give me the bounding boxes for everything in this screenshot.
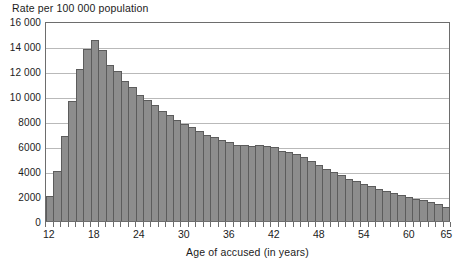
y-tick-label: 4000	[18, 167, 41, 178]
x-tick-label: 12	[43, 228, 55, 240]
x-tick	[405, 222, 406, 227]
x-tick-label: 65	[440, 228, 452, 240]
x-tick	[105, 222, 106, 227]
x-tick	[75, 222, 76, 227]
y-tick-label: 14 000	[10, 42, 41, 53]
x-axis-ticks	[45, 222, 450, 227]
x-tick	[285, 222, 286, 227]
x-tick-label: 24	[133, 228, 145, 240]
y-tick-label: 10 000	[10, 92, 41, 103]
x-tick	[210, 222, 211, 227]
x-tick	[360, 222, 361, 227]
x-tick-label: 18	[88, 228, 100, 240]
x-tick	[443, 222, 444, 227]
x-tick	[195, 222, 196, 227]
x-tick-label: 60	[403, 228, 415, 240]
x-tick-label: 54	[358, 228, 370, 240]
x-tick	[368, 222, 369, 227]
x-tick	[248, 222, 249, 227]
x-tick	[450, 222, 451, 227]
y-tick-label: 12 000	[10, 67, 41, 78]
x-tick-label: 36	[223, 228, 235, 240]
x-axis: 12182430364248546065	[45, 228, 450, 244]
x-tick-label: 48	[313, 228, 325, 240]
x-tick	[150, 222, 151, 227]
x-tick	[233, 222, 234, 227]
x-tick	[165, 222, 166, 227]
x-tick	[293, 222, 294, 227]
x-tick	[308, 222, 309, 227]
x-tick	[375, 222, 376, 227]
x-tick	[315, 222, 316, 227]
x-tick	[435, 222, 436, 227]
x-tick	[270, 222, 271, 227]
x-tick-label: 30	[178, 228, 190, 240]
x-tick	[225, 222, 226, 227]
y-axis: 16 00014 00012 00010 0008000600040002000…	[0, 22, 41, 222]
x-tick	[255, 222, 256, 227]
x-tick	[45, 222, 46, 227]
x-tick-label: 42	[268, 228, 280, 240]
x-tick	[143, 222, 144, 227]
x-tick	[338, 222, 339, 227]
chart-title: Rate per 100 000 population	[12, 2, 149, 14]
x-tick	[398, 222, 399, 227]
x-tick	[203, 222, 204, 227]
bar	[442, 207, 450, 221]
y-tick-label: 6000	[18, 142, 41, 153]
chart-figure: Rate per 100 000 population 16 00014 000…	[0, 0, 460, 267]
x-tick	[345, 222, 346, 227]
x-tick	[428, 222, 429, 227]
x-tick	[158, 222, 159, 227]
x-axis-title: Age of accused (in years)	[45, 246, 450, 258]
x-tick	[83, 222, 84, 227]
x-tick	[383, 222, 384, 227]
x-tick	[263, 222, 264, 227]
x-tick	[90, 222, 91, 227]
x-tick	[413, 222, 414, 227]
x-tick	[420, 222, 421, 227]
x-tick	[240, 222, 241, 227]
bar-series	[46, 23, 449, 221]
x-tick	[53, 222, 54, 227]
x-tick	[390, 222, 391, 227]
x-tick	[300, 222, 301, 227]
y-tick-label: 16 000	[10, 17, 41, 28]
x-tick	[128, 222, 129, 227]
x-tick	[98, 222, 99, 227]
x-tick	[353, 222, 354, 227]
x-tick	[113, 222, 114, 227]
x-tick	[323, 222, 324, 227]
x-tick	[330, 222, 331, 227]
x-tick	[120, 222, 121, 227]
plot-area	[45, 22, 450, 222]
x-tick	[218, 222, 219, 227]
x-tick	[173, 222, 174, 227]
x-tick	[60, 222, 61, 227]
y-tick-label: 8000	[18, 117, 41, 128]
x-tick	[135, 222, 136, 227]
x-tick	[180, 222, 181, 227]
y-tick-label: 0	[35, 217, 41, 228]
x-tick	[188, 222, 189, 227]
x-tick	[278, 222, 279, 227]
y-tick-label: 2000	[18, 192, 41, 203]
x-tick	[68, 222, 69, 227]
